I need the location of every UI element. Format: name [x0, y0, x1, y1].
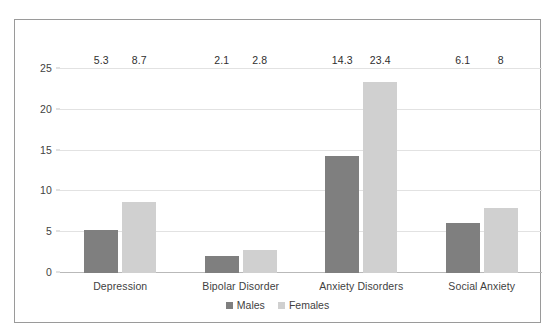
chart-frame: 0 5 10 15 20 25: [14, 19, 541, 323]
bar-value-label: 8.7: [132, 54, 147, 66]
x-category-label-anxiety-disorders: Anxiety Disorders: [301, 280, 422, 292]
bar-value-label: 8: [498, 54, 504, 66]
legend-item-females[interactable]: Females: [278, 299, 329, 311]
bar-anxiety-males[interactable]: [325, 156, 359, 273]
bar-wrap-anxiety-males: 14.3: [325, 69, 359, 273]
bar-wrap-social-males: 6.1: [446, 69, 480, 273]
males-swatch-icon: [226, 302, 233, 309]
bar-wrap-depression-females: 8.7: [122, 69, 156, 273]
chart-screenshot: 0 5 10 15 20 25: [0, 0, 556, 335]
bar-depression-females[interactable]: [122, 202, 156, 273]
y-tick-label-10: 10: [40, 184, 52, 196]
bar-groups: 5.3 8.7 Depression 2.1: [60, 69, 542, 273]
bar-value-label: 14.3: [332, 54, 353, 66]
bar-bipolar-females[interactable]: [243, 250, 277, 273]
bar-depression-males[interactable]: [84, 230, 118, 273]
bars-anxiety-disorders: 14.3 23.4: [301, 69, 422, 273]
y-tick-label-5: 5: [46, 225, 52, 237]
legend-label-females: Females: [289, 299, 329, 311]
legend-item-males[interactable]: Males: [226, 299, 265, 311]
females-swatch-icon: [278, 302, 285, 309]
bar-wrap-bipolar-males: 2.1: [205, 69, 239, 273]
bar-value-label: 23.4: [370, 54, 391, 66]
y-tick-label-20: 20: [40, 103, 52, 115]
bar-value-label: 2.8: [252, 54, 267, 66]
bar-group-social-anxiety: 6.1 8 Social Anxiety: [422, 69, 543, 273]
bar-wrap-social-females: 8: [484, 69, 518, 273]
bar-wrap-depression-males: 5.3: [84, 69, 118, 273]
bar-group-bipolar-disorder: 2.1 2.8 Bipolar Disorder: [181, 69, 302, 273]
y-tick-label-25: 25: [40, 62, 52, 74]
plot-area: 0 5 10 15 20 25: [60, 69, 542, 273]
bars-bipolar-disorder: 2.1 2.8: [181, 69, 302, 273]
bar-wrap-bipolar-females: 2.8: [243, 69, 277, 273]
bar-bipolar-males[interactable]: [205, 256, 239, 273]
bars-depression: 5.3 8.7: [60, 69, 181, 273]
x-category-label-social-anxiety: Social Anxiety: [422, 280, 543, 292]
bar-group-depression: 5.3 8.7 Depression: [60, 69, 181, 273]
legend-label-males: Males: [237, 299, 265, 311]
y-tick-label-0: 0: [46, 266, 52, 278]
chart-legend: Males Females: [15, 299, 540, 311]
bar-value-label: 5.3: [94, 54, 109, 66]
bar-social-males[interactable]: [446, 223, 480, 273]
x-category-label-bipolar-disorder: Bipolar Disorder: [181, 280, 302, 292]
bar-social-females[interactable]: [484, 208, 518, 273]
x-category-label-depression: Depression: [60, 280, 181, 292]
bars-social-anxiety: 6.1 8: [422, 69, 543, 273]
bar-anxiety-females[interactable]: [363, 82, 397, 273]
bar-value-label: 6.1: [455, 54, 470, 66]
bar-group-anxiety-disorders: 14.3 23.4 Anxiety Disorders: [301, 69, 422, 273]
y-tick-label-15: 15: [40, 144, 52, 156]
bar-wrap-anxiety-females: 23.4: [363, 69, 397, 273]
bar-value-label: 2.1: [214, 54, 229, 66]
